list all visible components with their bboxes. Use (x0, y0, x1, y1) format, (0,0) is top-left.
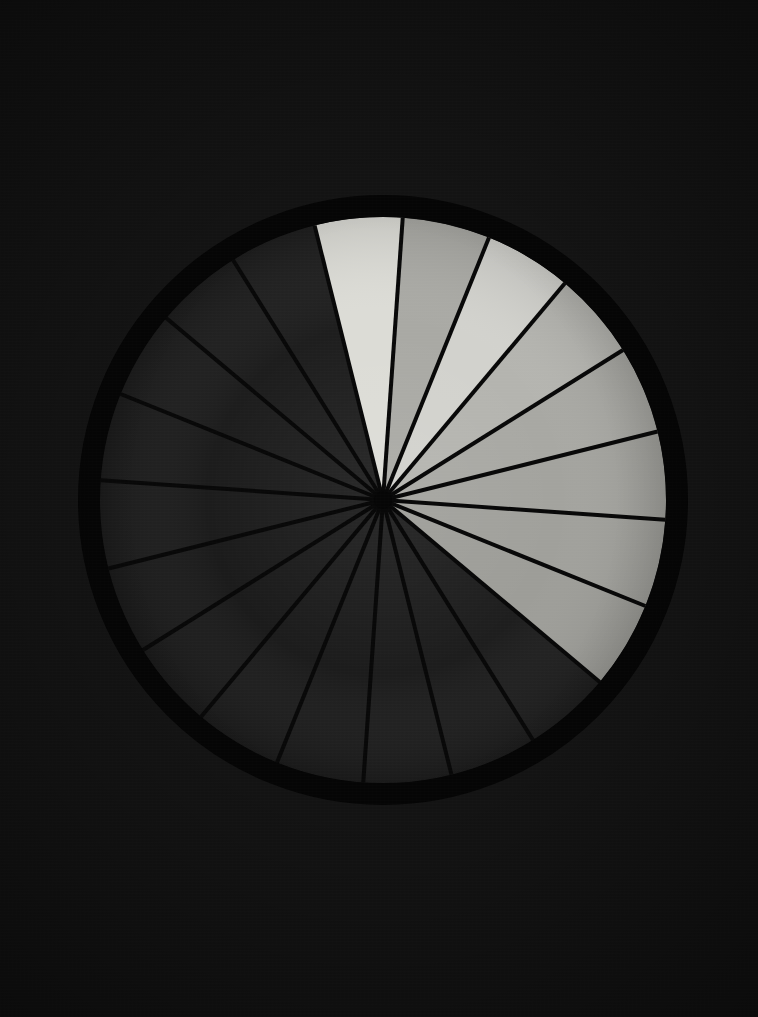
center-hub (374, 491, 392, 509)
radial-sector-wheel (0, 0, 758, 1017)
image-canvas (0, 0, 758, 1017)
